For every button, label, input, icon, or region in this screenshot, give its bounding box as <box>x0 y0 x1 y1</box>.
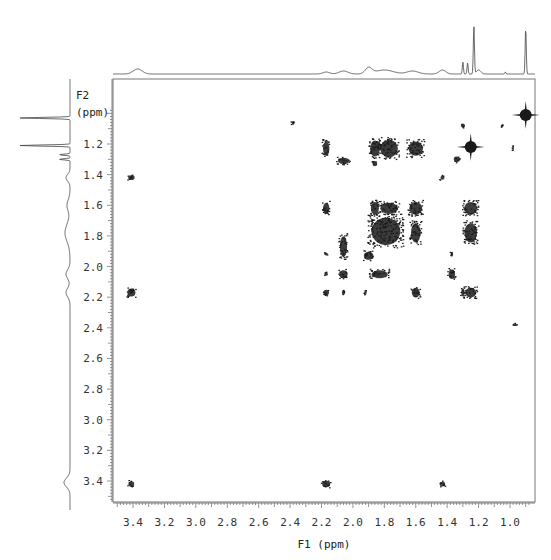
y-tick-label: 1.8 <box>83 230 103 243</box>
x-axis-title: F1 (ppm) <box>298 538 351 551</box>
x-axis: 3.43.23.02.82.62.42.22.01.81.61.41.21.0 <box>113 503 535 529</box>
top-projection <box>113 27 535 74</box>
y-tick-label: 1.2 <box>83 138 103 151</box>
y-tick-label: 3.4 <box>83 475 103 488</box>
x-tick-label: 2.4 <box>280 516 300 529</box>
x-tick-label: 1.8 <box>374 516 394 529</box>
y-tick-label: 2.0 <box>83 261 103 274</box>
cosy-spectrum-chart: 3.43.23.02.82.62.42.22.01.81.61.41.21.0 … <box>0 0 551 560</box>
x-tick-label: 1.6 <box>406 516 426 529</box>
left-projection-trace <box>20 79 70 510</box>
y-axis-title-ppm: (ppm) <box>76 106 109 119</box>
x-tick-label: 2.8 <box>217 516 237 529</box>
y-tick-label: 1.4 <box>83 169 103 182</box>
y-tick-label: 3.0 <box>83 414 103 427</box>
x-tick-label: 1.0 <box>500 516 520 529</box>
y-axis-title-f2: F2 <box>76 89 89 102</box>
y-tick-label: 2.8 <box>83 383 103 396</box>
x-tick-label: 2.2 <box>312 516 332 529</box>
y-tick-label: 2.4 <box>83 322 103 335</box>
y-axis: 1.21.41.61.82.02.22.42.62.83.03.23.4 <box>83 79 112 502</box>
y-tick-label: 1.6 <box>83 199 103 212</box>
y-tick-label: 3.2 <box>83 444 103 457</box>
x-tick-label: 2.0 <box>343 516 363 529</box>
x-tick-label: 1.2 <box>469 516 489 529</box>
top-projection-trace <box>113 27 535 74</box>
y-tick-label: 2.6 <box>83 352 103 365</box>
left-projection <box>20 79 70 510</box>
x-tick-label: 3.2 <box>154 516 174 529</box>
x-tick-label: 3.0 <box>186 516 206 529</box>
x-tick-label: 1.4 <box>437 516 457 529</box>
y-tick-label: 2.2 <box>83 291 103 304</box>
x-tick-label: 3.4 <box>123 516 143 529</box>
x-tick-label: 2.6 <box>249 516 269 529</box>
